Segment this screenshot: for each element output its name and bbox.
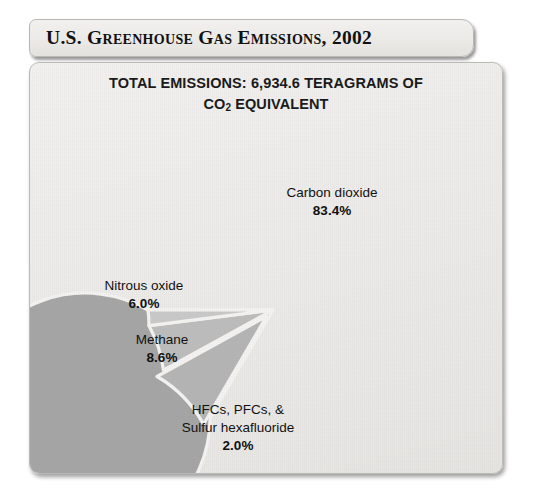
slice-label-nitrous-oxide: Nitrous oxide 6.0%: [74, 277, 214, 313]
slice-label-carbon-dioxide: Carbon dioxide 83.4%: [252, 184, 412, 220]
slice-label-nitrous-oxide-name: Nitrous oxide: [74, 277, 214, 295]
slice-label-fluorinated-value: 2.0%: [138, 437, 338, 455]
slice-label-methane-name: Methane: [92, 331, 232, 349]
slice-label-methane: Methane 8.6%: [92, 331, 232, 367]
slice-label-carbon-dioxide-value: 83.4%: [252, 202, 412, 220]
title-panel: U.S. Greenhouse Gas Emissions, 2002: [29, 19, 474, 57]
slice-label-fluorinated-line-2: Sulfur hexafluoride: [138, 419, 338, 437]
chart-panel: TOTAL EMISSIONS: 6,934.6 TERAGRAMS OF CO…: [29, 62, 503, 474]
slice-label-fluorinated-gases: HFCs, PFCs, & Sulfur hexafluoride 2.0%: [138, 401, 338, 454]
slice-label-methane-value: 8.6%: [92, 349, 232, 367]
slice-label-nitrous-oxide-value: 6.0%: [74, 295, 214, 313]
slice-label-carbon-dioxide-name: Carbon dioxide: [252, 184, 412, 202]
slice-label-fluorinated-line-1: HFCs, PFCs, &: [138, 401, 338, 419]
page-title: U.S. Greenhouse Gas Emissions, 2002: [46, 27, 372, 49]
